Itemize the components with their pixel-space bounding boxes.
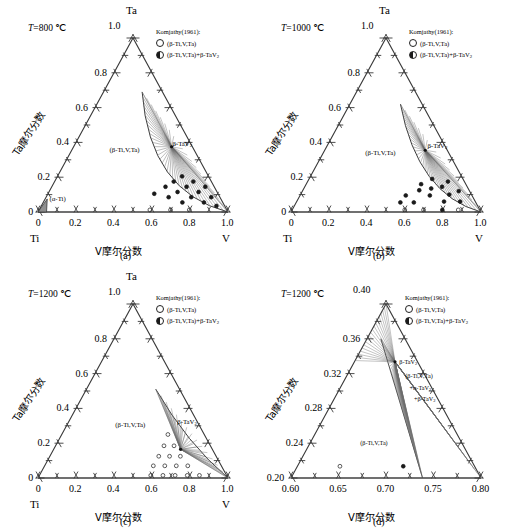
ytick-label: 0.4 bbox=[57, 402, 70, 413]
xtick-label: 0.75 bbox=[424, 483, 442, 494]
right-corner-label: V bbox=[222, 498, 230, 510]
x-axis-title: V摩尔分数 bbox=[95, 509, 142, 524]
xtick-label: 0 bbox=[36, 217, 41, 228]
ytick-label: 0.6 bbox=[76, 368, 89, 379]
data-point-open bbox=[338, 464, 342, 468]
panel-caption: (b) bbox=[373, 250, 385, 261]
panel-b: T=1000 ℃Ta1.0TiV00.20.40.60.81.000.20.40… bbox=[253, 0, 506, 266]
data-point-half bbox=[458, 200, 462, 204]
data-point-half bbox=[167, 195, 171, 199]
phase-label: (β-Ti,V,Ta) bbox=[365, 149, 395, 156]
data-point-half bbox=[215, 204, 219, 208]
phase-label: (β-Ti,V,Ta) bbox=[405, 372, 432, 379]
data-point-half bbox=[442, 200, 446, 204]
figure-root: T=800 ℃Ta1.0TiV00.20.40.60.81.000.20.40.… bbox=[0, 0, 506, 532]
phase-label: (α-Ti) bbox=[50, 195, 66, 202]
data-point-open bbox=[198, 473, 202, 477]
ytick-label: 0.2 bbox=[291, 171, 304, 182]
xtick-label: 0.6 bbox=[145, 483, 158, 494]
temperature-label: T=800 ℃ bbox=[28, 22, 66, 33]
data-point-half bbox=[404, 194, 408, 198]
phase-label: (β-Ti,V,Ta) bbox=[109, 146, 139, 153]
legend-item: (β-Ti,V,Ta)+β-TaV2 bbox=[156, 51, 219, 59]
data-point-half bbox=[398, 201, 402, 205]
data-point-half bbox=[202, 201, 206, 205]
data-point-half bbox=[164, 185, 168, 189]
legend-item: (β-Ti,V,Ta) bbox=[156, 39, 219, 47]
temperature-label: T=1200 ℃ bbox=[281, 288, 324, 299]
legend-item: (β-Ti,V,Ta)+β-TaV2 bbox=[409, 51, 472, 59]
ytick-top: 1.0 bbox=[361, 20, 374, 31]
panel-a: T=800 ℃Ta1.0TiV00.20.40.60.81.000.20.40.… bbox=[0, 0, 253, 266]
panel-caption: (a) bbox=[120, 250, 131, 261]
data-point-half bbox=[440, 185, 444, 189]
half-filled-circle-icon bbox=[156, 51, 164, 59]
data-point-half bbox=[180, 174, 184, 178]
xtick-label: 1.0 bbox=[221, 483, 234, 494]
half-filled-circle-icon bbox=[405, 317, 413, 325]
xtick-label: 0.80 bbox=[472, 483, 490, 494]
ytick-label: 0.20 bbox=[267, 472, 285, 483]
legend-item-label: (β-Ti,V,Ta) bbox=[167, 40, 196, 47]
ytick-label: 0.8 bbox=[95, 333, 108, 344]
open-circle-icon bbox=[409, 39, 417, 47]
ytick-label: 0 bbox=[281, 206, 286, 217]
ytick-label: 0.2 bbox=[38, 171, 51, 182]
data-point-half bbox=[209, 195, 213, 199]
xtick-label: 0.8 bbox=[436, 217, 449, 228]
xtick-label: 0.65 bbox=[329, 483, 347, 494]
x-axis-title: V摩尔分数 bbox=[348, 509, 395, 524]
data-point-half bbox=[197, 190, 201, 194]
phase-label: (β-Ti,V,Ta) bbox=[360, 439, 387, 446]
xtick-label: 1.0 bbox=[474, 217, 487, 228]
x-axis-title: V摩尔分数 bbox=[348, 243, 395, 258]
ytick-label: 0.8 bbox=[95, 67, 108, 78]
phase-label: β-TaV2 bbox=[177, 418, 197, 426]
data-point-open bbox=[172, 444, 176, 448]
data-point-open bbox=[157, 454, 161, 458]
legend-title: Komjathy(1961): bbox=[405, 294, 468, 301]
temperature-label: T=1200 ℃ bbox=[28, 288, 71, 299]
data-point-half bbox=[447, 193, 451, 197]
xtick-label: 0.8 bbox=[183, 217, 196, 228]
legend-item-label: (β-Ti,V,Ta)+β-TaV2 bbox=[416, 317, 468, 325]
ytick-label: 0.28 bbox=[305, 402, 323, 413]
data-point-half bbox=[419, 182, 423, 186]
legend: Komjathy(1961):(β-Ti,V,Ta)(β-Ti,V,Ta)+β-… bbox=[156, 28, 219, 59]
legend-item: (β-Ti,V,Ta) bbox=[156, 305, 219, 313]
data-point-open bbox=[163, 464, 167, 468]
temperature-label: T=1000 ℃ bbox=[281, 22, 324, 33]
phase-label: +β-TaV2 bbox=[414, 395, 436, 403]
legend-item: (β-Ti,V,Ta)+β-TaV2 bbox=[405, 317, 468, 325]
legend-item-label: (β-Ti,V,Ta) bbox=[420, 40, 449, 47]
data-point-open bbox=[185, 473, 189, 477]
xtick-label: 0.2 bbox=[69, 483, 82, 494]
apex-label-element: Ta bbox=[126, 270, 137, 282]
legend-item: (β-Ti,V,Ta) bbox=[405, 305, 468, 313]
ytick-label: 0.24 bbox=[286, 437, 304, 448]
xtick-label: 0.4 bbox=[107, 217, 120, 228]
ytick-label: 0.8 bbox=[348, 67, 361, 78]
open-circle-icon bbox=[156, 39, 164, 47]
ytick-top: 0.40 bbox=[353, 284, 371, 295]
data-point-half bbox=[457, 189, 461, 193]
ytick-label: 0.4 bbox=[57, 136, 70, 147]
data-point-half bbox=[176, 190, 180, 194]
data-point-half bbox=[189, 195, 193, 199]
data-point-half bbox=[191, 180, 195, 184]
half-filled-circle-icon bbox=[156, 317, 164, 325]
phase-label: β-TaV2 bbox=[172, 140, 192, 148]
ytick-label: 0 bbox=[28, 472, 33, 483]
xtick-label: 0 bbox=[36, 483, 41, 494]
legend: Komjathy(1961):(β-Ti,V,Ta)(β-Ti,V,Ta)+β-… bbox=[409, 28, 472, 59]
data-point-half bbox=[203, 185, 207, 189]
xtick-label: 0.60 bbox=[282, 483, 300, 494]
legend: Komjathy(1961):(β-Ti,V,Ta)(β-Ti,V,Ta)+β-… bbox=[156, 294, 219, 325]
xtick-label: 0 bbox=[289, 217, 294, 228]
right-corner-label: V bbox=[475, 232, 483, 244]
open-circle-icon bbox=[405, 305, 413, 313]
apex-label-element: Ta bbox=[379, 4, 390, 16]
ytick-label: 0.6 bbox=[76, 102, 89, 113]
data-point-half bbox=[430, 177, 434, 181]
half-filled-circle-icon bbox=[409, 51, 417, 59]
